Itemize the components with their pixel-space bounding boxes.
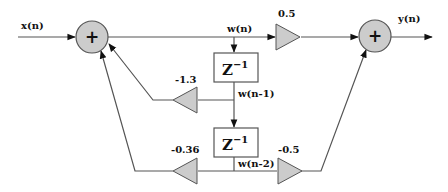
left-adder-plus: + — [85, 27, 99, 47]
gain-neg1.3-triangle — [173, 87, 197, 113]
gain-neg0.36-label: -0.36 — [171, 144, 200, 155]
gain-neg1.3-label: -1.3 — [175, 74, 197, 85]
filter-block-diagram: + + Z−1 Z−1 x(n) y(n) w(n) w(n-1) w(n-2)… — [0, 0, 448, 192]
gain-neg0.36-triangle — [173, 158, 197, 184]
gain-0.5-label: 0.5 — [278, 8, 295, 19]
g1-feedback-line — [109, 44, 173, 100]
right-adder-plus: + — [368, 26, 382, 46]
input-label: x(n) — [21, 20, 44, 31]
w2-label: w(n-2) — [237, 158, 274, 169]
gain-neg0.5-label: -0.5 — [278, 144, 300, 155]
gain-neg0.5-triangle — [278, 158, 302, 184]
output-label: y(n) — [397, 13, 421, 24]
g2-feedforward-line — [301, 50, 366, 171]
g2-feedback-line — [101, 51, 173, 171]
gain-0.5-triangle — [276, 24, 300, 50]
w0-label: w(n) — [226, 23, 252, 34]
w1-label: w(n-1) — [237, 88, 274, 99]
